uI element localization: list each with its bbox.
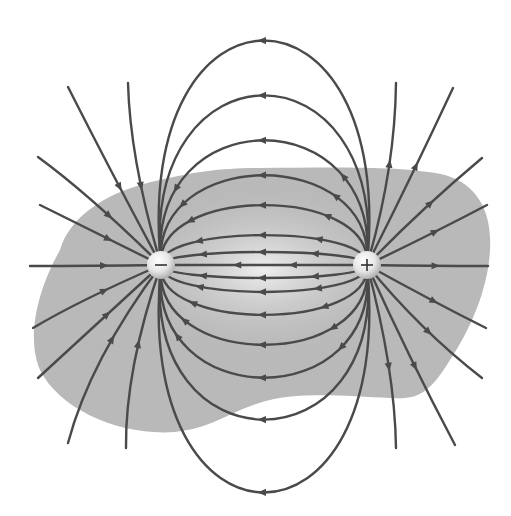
arrowhead-icon xyxy=(257,137,266,144)
field-line-positive-open-4 xyxy=(367,265,488,266)
arrowhead-icon xyxy=(258,489,267,496)
positive-charge[interactable] xyxy=(353,251,381,279)
dipole-field-diagram xyxy=(0,0,511,516)
negative-charge[interactable] xyxy=(147,251,175,279)
field-line-negative-open-4 xyxy=(30,265,161,266)
arrowhead-icon xyxy=(258,37,267,44)
arrowhead-icon xyxy=(258,92,267,99)
arrowhead-icon xyxy=(258,416,267,423)
